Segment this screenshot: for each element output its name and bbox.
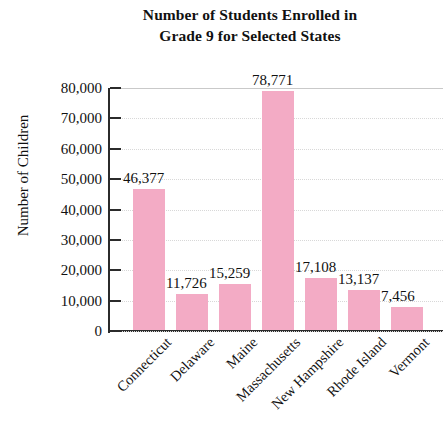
bar-value-label: 46,377 bbox=[123, 170, 164, 187]
y-axis-tick-label: 50,000 bbox=[61, 171, 102, 188]
bar: 13,137 bbox=[348, 290, 380, 330]
bar: 46,377 bbox=[133, 189, 165, 330]
y-axis-tick bbox=[110, 300, 121, 302]
y-axis-tick-label: 10,000 bbox=[61, 292, 102, 309]
y-axis-tick bbox=[110, 148, 121, 150]
x-axis-label: Vermont bbox=[386, 334, 433, 381]
bar: 11,726 bbox=[176, 294, 208, 330]
bar: 15,259 bbox=[219, 284, 251, 330]
y-axis-tick bbox=[110, 239, 121, 241]
bar-value-label: 78,771 bbox=[252, 72, 293, 89]
gridline bbox=[110, 331, 443, 333]
y-axis-tick-label: 70,000 bbox=[61, 110, 102, 127]
x-axis-label: Maine bbox=[223, 334, 261, 372]
y-axis-tick-label: 20,000 bbox=[61, 262, 102, 279]
y-axis-title: Number of Children bbox=[15, 76, 32, 276]
chart-title-line-2: Grade 9 for Selected States bbox=[70, 25, 430, 46]
y-axis-tick bbox=[110, 269, 121, 271]
y-axis-tick bbox=[110, 209, 121, 211]
bar: 78,771 bbox=[262, 91, 294, 330]
y-axis-tick-label: 60,000 bbox=[61, 140, 102, 157]
bar-value-label: 7,456 bbox=[381, 288, 415, 305]
y-axis-tick-label: 80,000 bbox=[61, 80, 102, 97]
bar-chart-figure: Number of Students Enrolled in Grade 9 f… bbox=[0, 0, 443, 432]
y-axis-tick bbox=[110, 330, 121, 332]
x-axis-label: Connecticut bbox=[113, 334, 175, 396]
bar: 17,108 bbox=[305, 278, 337, 330]
y-axis-tick-label: 40,000 bbox=[61, 201, 102, 218]
y-axis-tick bbox=[110, 117, 121, 119]
y-axis-tick-label: 30,000 bbox=[61, 231, 102, 248]
x-axis-labels: ConnecticutDelawareMaineMassachusettsNew… bbox=[108, 334, 443, 432]
chart-title-line-1: Number of Students Enrolled in bbox=[70, 4, 430, 25]
bar-value-label: 13,137 bbox=[338, 271, 379, 288]
y-axis-tick bbox=[110, 87, 121, 89]
y-axis-tick bbox=[110, 178, 121, 180]
bar: 7,456 bbox=[391, 307, 423, 330]
bar-value-label: 17,108 bbox=[295, 259, 336, 276]
bar-value-label: 15,259 bbox=[209, 265, 250, 282]
chart-title: Number of Students Enrolled in Grade 9 f… bbox=[70, 4, 430, 47]
plot-area: 010,00020,00030,00040,00050,00060,00070,… bbox=[108, 88, 443, 332]
y-axis-tick-label: 0 bbox=[95, 323, 103, 340]
bar-value-label: 11,726 bbox=[166, 275, 207, 292]
x-axis-label: Delaware bbox=[167, 334, 218, 385]
